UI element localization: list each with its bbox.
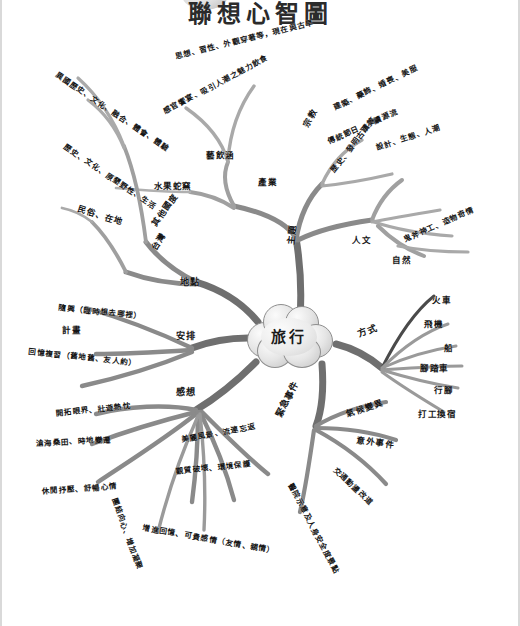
leaf-method-0[interactable]: 火車 xyxy=(432,296,451,305)
center-node[interactable]: 旅行 xyxy=(243,300,335,370)
page-edge-left xyxy=(0,0,2,626)
leaf-method-3[interactable]: 腳踏車 xyxy=(420,364,449,373)
leaf-theme-4[interactable]: 水果蛇窯 xyxy=(154,182,192,191)
leaf-theme-0[interactable]: 藝飲涵 xyxy=(206,151,235,160)
leaf-method-1[interactable]: 飛機 xyxy=(424,320,443,329)
mindmap-canvas: 聯想心智圖 xyxy=(0,0,520,626)
leaf-arrange-1[interactable]: 計畫 xyxy=(62,326,81,335)
branch-label-arrange[interactable]: 安排 xyxy=(176,331,196,341)
branch-label-gain[interactable]: 感想 xyxy=(176,387,196,397)
leaf-method-4[interactable]: 行腳 xyxy=(434,386,453,395)
leaf-theme-7[interactable]: 人文 xyxy=(352,236,371,245)
leaf-method-2[interactable]: 船 xyxy=(444,344,454,353)
leaf-method-5[interactable]: 打工換宿 xyxy=(418,410,456,419)
center-node-label: 旅行 xyxy=(243,300,335,370)
leaf-theme-11[interactable]: 自然 xyxy=(392,256,411,265)
branch-label-theme[interactable]: 主題 xyxy=(286,224,298,245)
branch-label-place[interactable]: 地點 xyxy=(180,277,200,287)
leaf-theme-3[interactable]: 產業 xyxy=(258,178,277,187)
